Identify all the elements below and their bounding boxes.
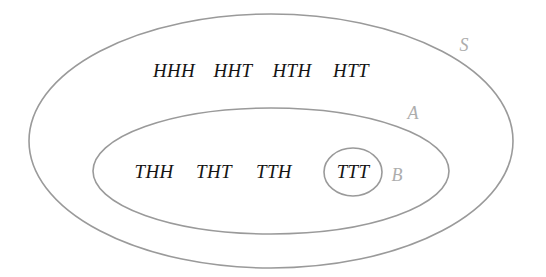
outcome-label: TTT xyxy=(337,161,370,183)
outcome-label: HTT xyxy=(333,60,369,82)
outcome-label: TTH xyxy=(256,161,292,183)
universe-set-ellipse xyxy=(29,14,513,268)
outcome-label: THT xyxy=(196,161,232,183)
set-label-a: A xyxy=(408,103,419,124)
outcome-label: THH xyxy=(135,161,174,183)
venn-diagram-canvas: S A B HHH HHT HTH HTT THH THT TTH TTT xyxy=(0,0,546,277)
outcome-label: HTH xyxy=(273,60,312,82)
outcome-label: HHH xyxy=(153,60,195,82)
set-label-b: B xyxy=(392,165,403,186)
set-label-s: S xyxy=(460,35,469,56)
outcome-label: HHT xyxy=(214,60,253,82)
